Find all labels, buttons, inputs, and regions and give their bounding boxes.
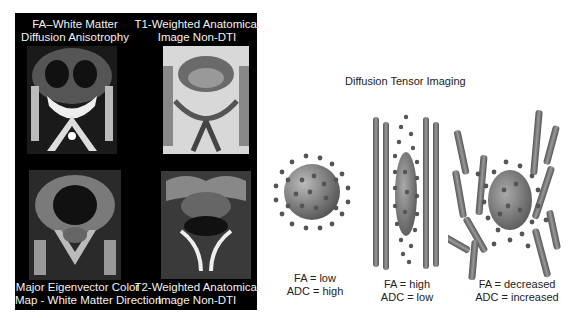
anisotropic-fiber-illustration [365, 112, 455, 272]
fa-value: FA = low [270, 272, 360, 285]
caption-line: Image Non-DTI [132, 31, 262, 44]
mri-panel: FA–White Matter Diffusion Anisotrophy T1… [15, 13, 257, 310]
diagram-title: Diffusion Tensor Imaging [345, 75, 466, 87]
caption-line: Diffusion Anisotrophy [15, 31, 135, 44]
caption-line: Major Eigenvector Color [15, 281, 140, 294]
caption-eigenvector: Major Eigenvector Color Map - White Matt… [15, 281, 140, 307]
adc-value: ADC = increased [462, 291, 572, 304]
fa-scan-image [27, 46, 117, 154]
t2-scan-image [161, 171, 251, 279]
caption-line: T2-Weighted Anatomical [132, 281, 262, 294]
caption-line: Image Non-DTI [132, 294, 262, 307]
case-isotropic-label: FA = low ADC = high [270, 272, 360, 298]
fa-value: FA = decreased [462, 278, 572, 291]
adc-value: ADC = low [362, 291, 452, 304]
fa-value: FA = high [362, 278, 452, 291]
case-disrupted-label: FA = decreased ADC = increased [462, 278, 572, 304]
isotropic-sphere-illustration [262, 140, 362, 240]
caption-t1: T1-Weighted Anatomical Image Non-DTI [132, 18, 262, 44]
caption-line: FA–White Matter [15, 18, 135, 31]
adc-value: ADC = high [270, 285, 360, 298]
caption-t2: T2-Weighted Anatomical Image Non-DTI [132, 281, 262, 307]
eigenvector-scan-image [29, 170, 121, 280]
caption-line: Map - White Matter Direction [15, 294, 140, 307]
caption-fa: FA–White Matter Diffusion Anisotrophy [15, 18, 135, 44]
t1-scan-image [163, 46, 249, 154]
caption-line: T1-Weighted Anatomical [132, 18, 262, 31]
case-anisotropic-label: FA = high ADC = low [362, 278, 452, 304]
disrupted-fiber-illustration [448, 110, 573, 280]
